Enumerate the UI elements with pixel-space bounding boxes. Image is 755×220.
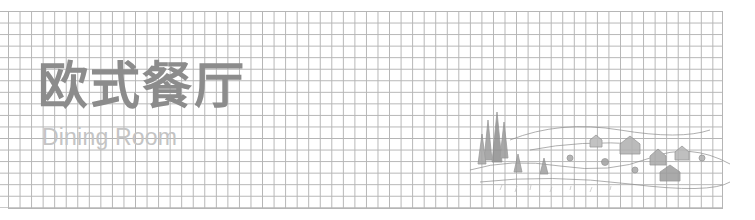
grid-background-edge xyxy=(0,11,8,208)
tree-icon xyxy=(478,112,508,164)
page-subtitle: Dining Room xyxy=(42,124,177,150)
village-landscape-sketch-image xyxy=(470,100,730,200)
page-title: 欧式餐厅 xyxy=(38,56,246,116)
house-icon xyxy=(590,135,689,181)
